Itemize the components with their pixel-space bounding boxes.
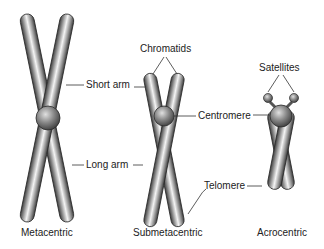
- submetacentric-label: Submetacentric: [133, 228, 202, 238]
- metacentric-label: Metacentric: [21, 228, 73, 238]
- telomere-label: Telomere: [204, 181, 245, 191]
- satellites-label: Satellites: [259, 63, 300, 73]
- centromere-ball: [36, 106, 60, 130]
- chromosome-diagram: [0, 0, 324, 249]
- submetacentric-chromosome: [133, 57, 206, 228]
- chromatids-label: Chromatids: [140, 44, 191, 54]
- metacentric-chromosome: [19, 13, 84, 224]
- short-arm-label: Short arm: [86, 80, 130, 90]
- acrocentric-label: Acrocentric: [257, 228, 307, 238]
- centromere-label: Centromere: [198, 111, 251, 121]
- acrocentric-chromosome: [247, 75, 299, 191]
- long-arm-label: Long arm: [86, 160, 128, 170]
